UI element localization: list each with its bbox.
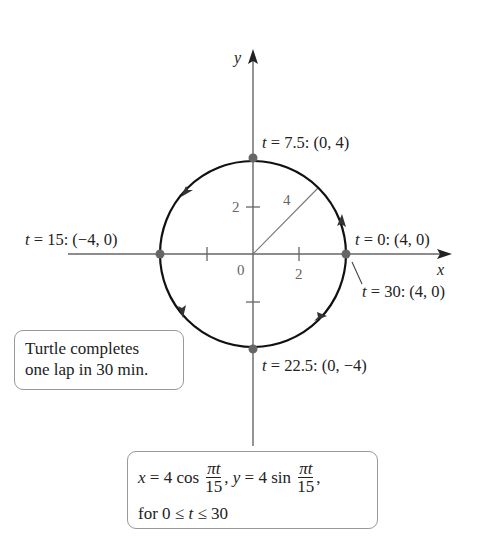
eq-x-frac-den: 15 <box>205 478 222 495</box>
eq-x-frac-num: πt <box>206 460 221 478</box>
label-t15: t = 15: (−4, 0) <box>25 230 117 249</box>
turtle-lap-note: Turtle completes one lap in 30 min. <box>14 330 184 390</box>
label-t30: t = 30: (4, 0) <box>362 282 445 301</box>
y-tick-label-2: 2 <box>232 199 240 215</box>
eq-y-var: y <box>233 468 241 488</box>
eq-y-frac-num: πt <box>298 460 313 478</box>
turtle-note-line2: one lap in 30 min. <box>25 359 183 380</box>
eq-x-rhs: = 4 cos <box>146 468 204 488</box>
parametric-equation-note: x = 4 cos πt 15 , y = 4 sin πt 15 , for … <box>127 451 378 529</box>
y-axis-label: y <box>232 49 242 67</box>
eq-y-rhs: = 4 sin <box>240 468 295 488</box>
origin-label: 0 <box>237 262 245 278</box>
turtle-note-line1: Turtle completes <box>25 338 183 359</box>
point-t0 <box>342 250 351 259</box>
t30-leader-line <box>352 262 362 284</box>
equation-line: x = 4 cos πt 15 , y = 4 sin πt 15 , <box>138 460 321 495</box>
eq-separator: , <box>224 468 233 488</box>
eq-y-frac-den: 15 <box>297 478 314 495</box>
eq-y-fraction: πt 15 <box>297 460 314 495</box>
eq-x-fraction: πt 15 <box>205 460 222 495</box>
x-tick-label-2: 2 <box>295 266 303 282</box>
label-t22-5: t = 22.5: (0, −4) <box>262 356 367 375</box>
label-t0: t = 0: (4, 0) <box>355 230 430 249</box>
radius-label: 4 <box>283 192 291 208</box>
point-t7-5 <box>249 154 258 163</box>
eq-trailing-comma: , <box>316 468 320 488</box>
label-t7-5: t = 7.5: (0, 4) <box>262 133 349 152</box>
point-t22-5 <box>249 345 258 354</box>
eq-x-var: x <box>138 468 146 488</box>
point-t15 <box>156 250 165 259</box>
domain-line: for 0 ≤ t ≤ 30 <box>138 504 228 524</box>
x-axis-label: x <box>436 261 444 278</box>
